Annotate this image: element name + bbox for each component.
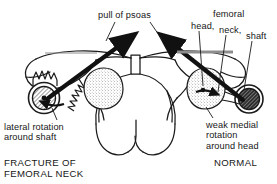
displaced-femoral-head	[84, 68, 123, 109]
caption-fracture-of-femoral-neck: FRACTURE OF FEMORAL NECK	[4, 158, 84, 179]
label-neck: neck,	[219, 25, 241, 35]
label-weak-medial-rotation: weak medial rotation around head	[206, 120, 259, 151]
label-lateral-rotation: lateral rotation around shaft	[4, 122, 64, 143]
jagged-fracture-line	[68, 85, 84, 111]
jagged-fracture-edge-upper	[33, 71, 57, 80]
label-head: head,	[191, 21, 215, 31]
label-shaft: shaft	[246, 31, 266, 41]
leader-psoas-right	[150, 22, 163, 41]
leader-shaft	[244, 41, 252, 90]
caption-normal: NORMAL	[214, 158, 257, 169]
fractured-shaft-cross-section	[29, 83, 60, 114]
anatomy-figure: pull of psoas femoral head, neck, shaft …	[0, 0, 277, 184]
label-femoral: femoral	[213, 9, 244, 19]
right-hip-normal	[187, 68, 263, 113]
label-pull-of-psoas: pull of psoas	[98, 10, 151, 20]
leader-psoas-left	[106, 22, 115, 41]
femoral-head	[187, 68, 225, 109]
